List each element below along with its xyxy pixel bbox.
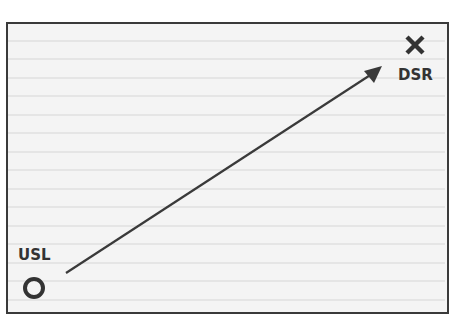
end-label: DSR bbox=[398, 66, 433, 84]
arrow-head-icon bbox=[364, 66, 382, 83]
start-label: USL bbox=[18, 246, 51, 264]
diagram-canvas bbox=[0, 0, 451, 336]
circle-marker-icon bbox=[25, 279, 43, 297]
ruled-lines bbox=[8, 41, 445, 300]
arrow-line bbox=[66, 70, 378, 273]
x-marker-icon bbox=[407, 37, 423, 53]
